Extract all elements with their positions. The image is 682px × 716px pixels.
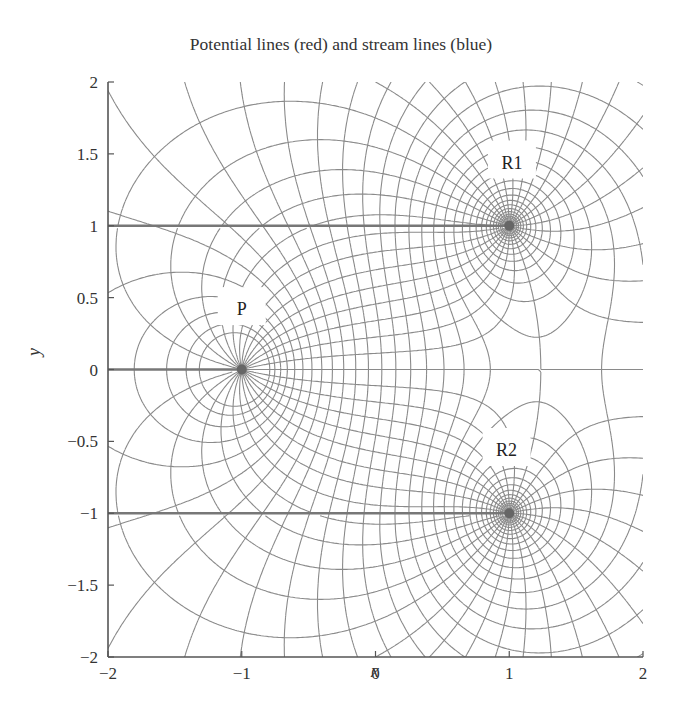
- y-tick-label: −1: [80, 504, 98, 523]
- y-tick-label: 2: [90, 73, 99, 92]
- x-tick-label: 2: [639, 664, 648, 683]
- x-tick-label: 1: [505, 664, 514, 683]
- y-tick-label: −1.5: [67, 576, 98, 595]
- x-tick-label: −1: [233, 664, 251, 683]
- y-tick-label: 1.5: [77, 145, 98, 164]
- x-tick-label: −2: [99, 664, 117, 683]
- y-tick-label: −0.5: [67, 432, 98, 451]
- singularity-point: [504, 221, 514, 231]
- x-axis-label: x: [370, 661, 379, 681]
- axis-ticks: −2−1012−2−1.5−1−0.500.511.52: [67, 73, 647, 683]
- point-label-r2: R2: [496, 440, 517, 460]
- point-label-r1: R1: [501, 153, 522, 173]
- y-tick-label: 0: [90, 361, 99, 380]
- contour-plot: −2−1012−2−1.5−1−0.500.511.52 PR1R2 x y: [0, 0, 682, 716]
- singularity-point: [504, 508, 514, 518]
- y-tick-label: 1: [90, 217, 99, 236]
- point-label-p: P: [237, 299, 247, 319]
- y-tick-label: 0.5: [77, 289, 98, 308]
- y-axis-label: y: [24, 348, 44, 358]
- y-tick-label: −2: [80, 648, 98, 667]
- singularity-point: [237, 365, 247, 375]
